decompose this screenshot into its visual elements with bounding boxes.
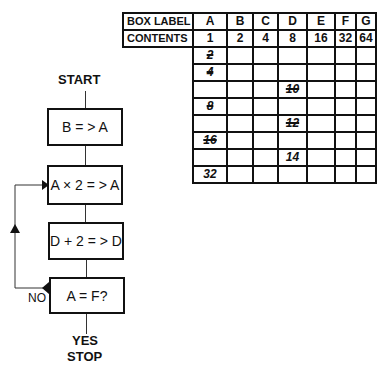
- trace-cell-a: 8: [193, 98, 227, 115]
- trace-cell-d: 14: [278, 149, 307, 166]
- trace-row: 10: [123, 81, 376, 98]
- yes-label: YES: [72, 333, 98, 348]
- contents-d: 8: [278, 30, 307, 47]
- trace-row: 12: [123, 115, 376, 132]
- column-f: F: [335, 13, 356, 30]
- connector-line: [85, 205, 86, 222]
- connector-line: [86, 260, 87, 277]
- start-label: START: [58, 72, 100, 87]
- column-a: A: [193, 13, 227, 30]
- trace-row: 14: [123, 149, 376, 166]
- column-e: E: [307, 13, 335, 30]
- trace-cell-d: 10: [278, 81, 307, 98]
- trace-row: 32: [123, 166, 376, 183]
- contents-b: 2: [227, 30, 253, 47]
- contents-e: 16: [307, 30, 335, 47]
- box-label-header: BOX LABEL: [123, 13, 193, 30]
- step-text: D + 2 = > D: [50, 233, 122, 249]
- trace-cell-a: 2: [193, 47, 227, 64]
- trace-row: 4: [123, 64, 376, 81]
- contents-f: 32: [335, 30, 356, 47]
- connector-line: [85, 146, 86, 165]
- trace-row: 8: [123, 98, 376, 115]
- trace-cell-a: 16: [193, 132, 227, 149]
- column-b: B: [227, 13, 253, 30]
- contents-row: CONTENTS 1 2 4 8 16 32 64: [123, 30, 376, 47]
- up-arrow-icon: [10, 224, 20, 233]
- box-trace-table: BOX LABEL A B C D E F G CONTENTS 1 2 4 8…: [122, 12, 377, 184]
- column-c: C: [253, 13, 278, 30]
- step-text: A × 2 = > A: [51, 177, 120, 193]
- column-g: G: [356, 13, 376, 30]
- decision-a-equals-f: A = F?: [49, 277, 125, 314]
- step-text: A = F?: [67, 288, 108, 304]
- stop-label: STOP: [67, 349, 102, 364]
- contents-header: CONTENTS: [123, 30, 193, 47]
- trace-cell-d: 12: [278, 115, 307, 132]
- connector-line: [86, 314, 87, 334]
- loop-back-arrow: [0, 0, 60, 370]
- no-label: NO: [28, 291, 46, 305]
- column-d: D: [278, 13, 307, 30]
- contents-g: 64: [356, 30, 376, 47]
- connector-line: [85, 91, 86, 108]
- trace-row: 2: [123, 47, 376, 64]
- trace-cell-a: 4: [193, 64, 227, 81]
- trace-cell-a: 32: [193, 166, 227, 183]
- arrow-into-step-icon: [42, 180, 49, 190]
- contents-c: 4: [253, 30, 278, 47]
- contents-a: 1: [193, 30, 227, 47]
- step-text: B = > A: [62, 119, 108, 135]
- trace-row: 16: [123, 132, 376, 149]
- box-label-row: BOX LABEL A B C D E F G: [123, 13, 376, 30]
